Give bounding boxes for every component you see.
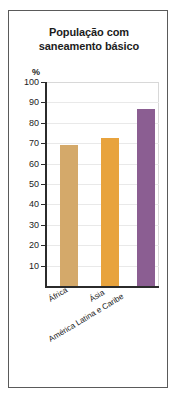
plot-area xyxy=(46,82,159,286)
y-tick-mark-90 xyxy=(41,102,45,103)
plot-frame-top xyxy=(46,82,159,83)
gridline-90 xyxy=(46,102,159,103)
bar-africa xyxy=(60,145,78,286)
chart-figure: População com saneamento básico % 100 90… xyxy=(8,10,168,388)
y-tick-mark-20 xyxy=(41,245,45,246)
y-tick-mark-40 xyxy=(41,204,45,205)
y-tick-mark-30 xyxy=(41,225,45,226)
y-tick-label-30: 30 xyxy=(13,221,39,230)
y-tick-label-90: 90 xyxy=(13,98,39,107)
bar-asia xyxy=(101,138,119,286)
y-tick-label-40: 40 xyxy=(13,200,39,209)
bar-america-latina-e-caribe xyxy=(137,109,155,286)
y-tick-label-10: 10 xyxy=(13,262,39,271)
y-tick-mark-50 xyxy=(41,184,45,185)
y-axis-line xyxy=(45,82,47,287)
y-tick-mark-10 xyxy=(41,266,45,267)
y-tick-mark-60 xyxy=(41,164,45,165)
x-tick-label-africa: África xyxy=(47,285,69,303)
y-axis-tick-labels: 100 90 80 70 60 50 40 30 20 10 xyxy=(9,11,39,388)
y-tick-label-70: 70 xyxy=(13,139,39,148)
y-tick-mark-70 xyxy=(41,143,45,144)
y-tick-mark-80 xyxy=(41,123,45,124)
y-tick-label-80: 80 xyxy=(13,119,39,128)
y-tick-label-50: 50 xyxy=(13,180,39,189)
y-tick-label-60: 60 xyxy=(13,160,39,169)
y-tick-mark-100 xyxy=(41,82,45,83)
x-tick-label-america-latina-e-caribe: América Latina e Caribe xyxy=(47,292,125,344)
y-tick-label-100: 100 xyxy=(13,78,39,87)
y-tick-label-20: 20 xyxy=(13,241,39,250)
